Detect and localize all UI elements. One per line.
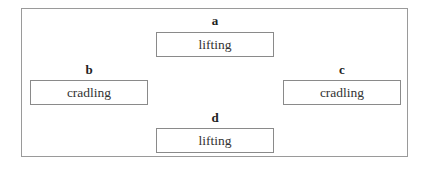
- node-b-label: b: [30, 63, 148, 77]
- node-c-label: c: [283, 63, 401, 77]
- node-a-text: lifting: [199, 37, 232, 53]
- node-d-label: d: [156, 111, 274, 125]
- node-c-box: cradling: [283, 80, 401, 105]
- node-c-text: cradling: [320, 85, 364, 101]
- node-d-box: lifting: [156, 128, 274, 153]
- node-b-box: cradling: [30, 80, 148, 105]
- node-a-box: lifting: [156, 32, 274, 57]
- node-a-label: a: [156, 14, 274, 28]
- node-b-text: cradling: [67, 85, 111, 101]
- node-d-text: lifting: [199, 133, 232, 149]
